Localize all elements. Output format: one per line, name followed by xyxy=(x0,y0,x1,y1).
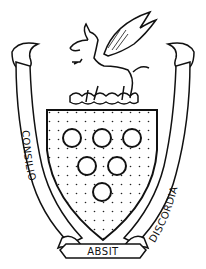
motto-center: ABSIT xyxy=(87,246,119,257)
wyvern-crest xyxy=(70,12,156,104)
coat-of-arms: CONSILIO DISCORDIA ABSIT xyxy=(0,0,206,269)
